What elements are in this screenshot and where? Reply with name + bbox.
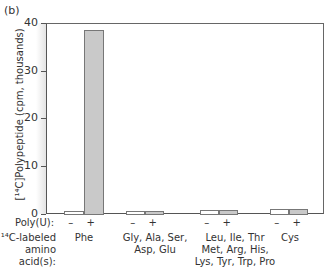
bar-gly-minus bbox=[126, 211, 145, 215]
amino-row-label-3: acid(s): bbox=[0, 256, 56, 268]
group-label-phe: Phe bbox=[64, 232, 104, 244]
y-tick-label: 10 bbox=[18, 160, 38, 172]
y-tick-label: 40 bbox=[18, 17, 38, 29]
bar-phe-minus bbox=[64, 211, 84, 215]
y-tick-10 bbox=[41, 166, 46, 167]
bar-leu-plus bbox=[219, 210, 238, 215]
y-tick-label: 20 bbox=[18, 112, 38, 124]
y-tick-label: 30 bbox=[18, 65, 38, 77]
polyu-row-label: Poly(U): bbox=[0, 217, 54, 229]
bar-phe-plus bbox=[84, 30, 104, 215]
amino-row-label-2: amino bbox=[0, 244, 56, 256]
group-label-leu-line2: Met, Arg, His, bbox=[180, 244, 290, 256]
polyu-signs-phe: – + bbox=[64, 217, 104, 228]
polyu-signs-cys: – + bbox=[270, 217, 310, 228]
group-label-leu-line3: Lys, Tyr, Trp, Pro bbox=[180, 256, 290, 268]
polyu-signs-gly: – + bbox=[126, 217, 166, 228]
bar-cys-plus bbox=[289, 209, 308, 215]
bar-leu-minus bbox=[200, 210, 219, 215]
y-tick-40 bbox=[41, 23, 46, 24]
panel-label: (b) bbox=[4, 4, 20, 17]
polyu-signs-leu: – + bbox=[200, 217, 240, 228]
group-label-cys: Cys bbox=[270, 232, 310, 244]
y-tick-30 bbox=[41, 71, 46, 72]
y-tick-0 bbox=[41, 214, 46, 215]
amino-row-label-1: ¹⁴C-labeled bbox=[0, 232, 56, 244]
bar-cys-minus bbox=[270, 209, 289, 215]
bar-gly-plus bbox=[145, 211, 164, 215]
y-tick-20 bbox=[41, 118, 46, 119]
